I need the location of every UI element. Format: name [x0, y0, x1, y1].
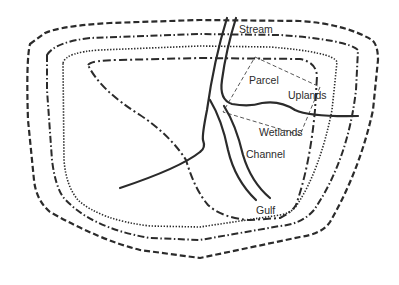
label-gulf: Gulf: [256, 204, 275, 216]
label-parcel: Parcel: [249, 74, 279, 86]
label-wetlands: Wetlands: [259, 126, 303, 138]
watershed-diagram: Stream Parcel Uplands Wetlands Channel G…: [0, 0, 399, 285]
label-uplands: Uplands: [288, 89, 327, 101]
label-stream: Stream: [239, 23, 273, 35]
label-channel: Channel: [246, 148, 285, 160]
